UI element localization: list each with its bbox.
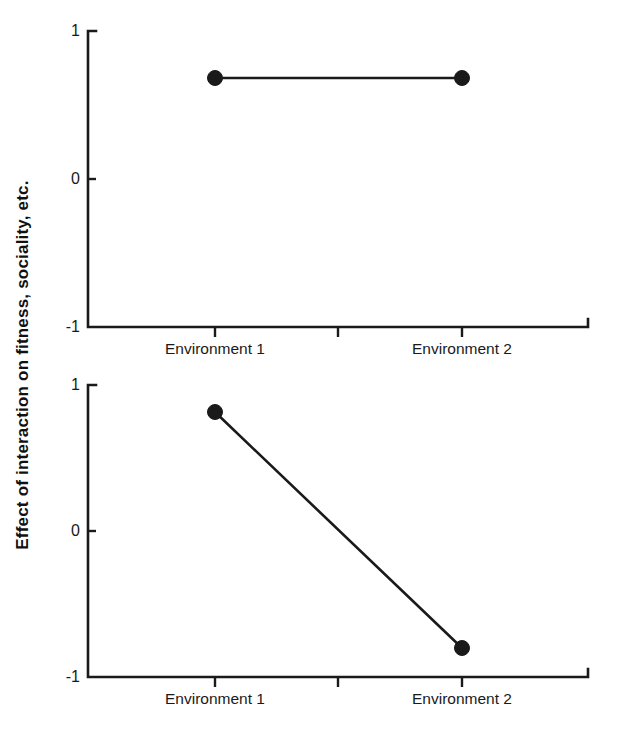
figure-container: Effect of interaction on fitness, social… [0,0,621,730]
chart-panel-bottom: 1 0 -1 Environment 1 Environment 2 [46,355,621,730]
data-point-env2-bottom [455,641,470,656]
chart-panel-top: 1 0 -1 Environment 1 Environment 2 [46,0,621,365]
series-line-bottom [215,412,462,648]
data-point-env2-top [455,71,470,86]
plot-area-bottom [46,355,621,730]
y-axis-label-container: Effect of interaction on fitness, social… [0,0,46,730]
data-point-env1-top [208,71,223,86]
x-category-label-env2-bottom: Environment 2 [382,690,542,708]
x-category-label-env1-bottom: Environment 1 [135,690,295,708]
y-axis-label: Effect of interaction on fitness, social… [13,180,33,549]
axis-frame-top [88,31,588,327]
data-point-env1-bottom [208,405,223,420]
plot-area-top [46,0,621,365]
